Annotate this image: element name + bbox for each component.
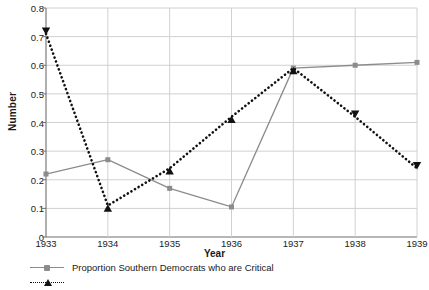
data-point-marker [229, 204, 234, 209]
x-axis-title: Year [0, 248, 429, 259]
data-point-marker [105, 157, 110, 162]
data-point-marker [42, 28, 50, 35]
legend-item-second[interactable] [30, 276, 274, 289]
legend-item-label: Proportion Southern Democrats who are Cr… [72, 262, 274, 273]
data-point-marker [351, 111, 359, 118]
data-point-marker [353, 63, 358, 68]
chart-legend: Proportion Southern Democrats who are Cr… [30, 261, 274, 290]
data-point-marker [415, 60, 420, 65]
data-point-marker [167, 186, 172, 191]
legend-marker-triangle-icon [30, 277, 64, 288]
data-point-marker [44, 172, 49, 177]
data-point-marker [413, 162, 421, 169]
legend-item-critical[interactable]: Proportion Southern Democrats who are Cr… [30, 261, 274, 274]
legend-marker-square-icon [30, 262, 64, 273]
